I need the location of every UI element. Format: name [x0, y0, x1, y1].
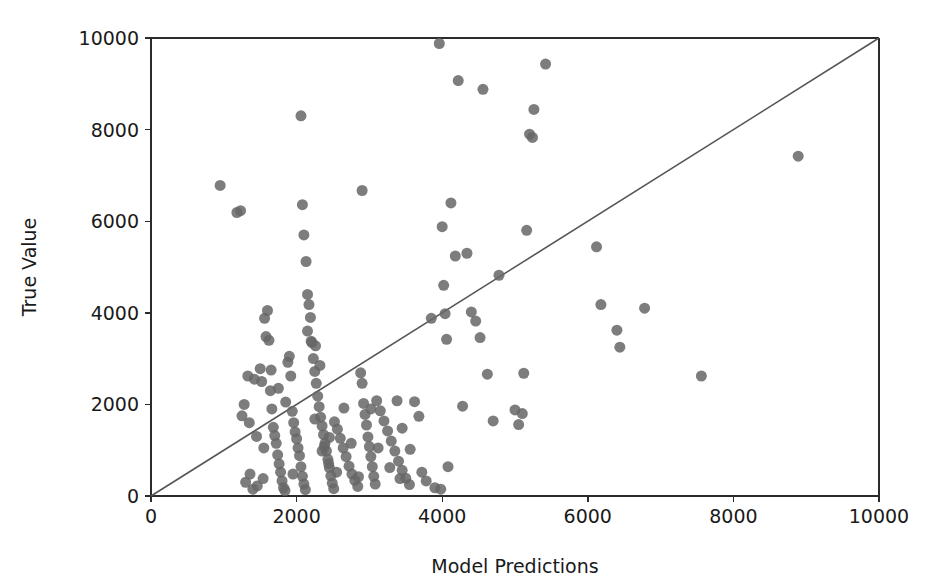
- scatter-point: [457, 401, 468, 412]
- scatter-point: [280, 397, 291, 408]
- scatter-point: [258, 442, 269, 453]
- y-tick-label: 0: [127, 485, 139, 507]
- scatter-point: [696, 371, 707, 382]
- y-axis-title: True Value: [18, 218, 40, 318]
- scatter-point: [314, 360, 325, 371]
- scatter-point: [793, 151, 804, 162]
- scatter-point: [493, 270, 504, 281]
- scatter-point: [357, 378, 368, 389]
- scatter-point: [311, 378, 322, 389]
- scatter-point: [370, 479, 381, 490]
- scatter-point: [357, 185, 368, 196]
- scatter-point: [450, 251, 461, 262]
- scatter-point: [328, 483, 339, 494]
- x-tick-label: 6000: [564, 505, 612, 527]
- scatter-point: [421, 475, 432, 486]
- scatter-point: [426, 313, 437, 324]
- scatter-point: [517, 408, 528, 419]
- scatter-point: [346, 438, 357, 449]
- scatter-point: [323, 458, 334, 469]
- scatter-point: [324, 432, 335, 443]
- scatter-point: [258, 473, 269, 484]
- scatter-point: [409, 396, 420, 407]
- scatter-point: [272, 449, 283, 460]
- scatter-point: [639, 303, 650, 314]
- scatter-point: [298, 229, 309, 240]
- scatter-point: [245, 469, 256, 480]
- scatter-point: [273, 383, 284, 394]
- scatter-point: [271, 438, 282, 449]
- scatter-point: [384, 462, 395, 473]
- scatter-point: [488, 415, 499, 426]
- scatter-point: [365, 451, 376, 462]
- scatter-point: [255, 363, 266, 374]
- x-tick-label: 4000: [418, 505, 466, 527]
- scatter-point: [434, 38, 445, 49]
- scatter-point: [288, 417, 299, 428]
- x-tick-label: 2000: [272, 505, 320, 527]
- scatter-point: [352, 481, 363, 492]
- scatter-point: [438, 280, 449, 291]
- x-tick-label: 8000: [709, 505, 757, 527]
- scatter-point: [312, 391, 323, 402]
- scatter-point: [477, 84, 488, 95]
- scatter-point: [453, 75, 464, 86]
- scatter-point: [435, 484, 446, 495]
- scatter-point: [335, 433, 346, 444]
- scatter-point: [614, 342, 625, 353]
- scatter-point: [445, 197, 456, 208]
- scatter-point: [437, 221, 448, 232]
- scatter-point: [382, 425, 393, 436]
- scatter-point: [338, 403, 349, 414]
- scatter-point: [513, 419, 524, 430]
- scatter-point: [389, 446, 400, 457]
- scatter-point: [331, 467, 342, 478]
- x-tick-label: 10000: [849, 505, 909, 527]
- scatter-point: [256, 376, 267, 387]
- scatter-point: [303, 299, 314, 310]
- scatter-point: [367, 461, 378, 472]
- scatter-point: [341, 451, 352, 462]
- y-tick-label: 4000: [91, 302, 139, 324]
- scatter-point: [521, 225, 532, 236]
- y-tick-label: 2000: [91, 393, 139, 415]
- scatter-point: [251, 431, 262, 442]
- scatter-point: [392, 395, 403, 406]
- scatter-point: [362, 431, 373, 442]
- scatter-point: [355, 367, 366, 378]
- scatter-point: [527, 132, 538, 143]
- scatter-point: [239, 399, 250, 410]
- scatter-point: [540, 59, 551, 70]
- scatter-point: [378, 415, 389, 426]
- scatter-point: [287, 406, 298, 417]
- y-tick-label: 8000: [91, 119, 139, 141]
- scatter-point: [266, 365, 277, 376]
- scatter-point: [518, 368, 529, 379]
- scatter-point: [413, 411, 424, 422]
- scatter-point: [295, 110, 306, 121]
- scatter-point: [386, 436, 397, 447]
- scatter-point: [305, 312, 316, 323]
- scatter-point: [482, 369, 493, 380]
- x-axis-title: Model Predictions: [431, 555, 598, 577]
- scatter-point: [291, 433, 302, 444]
- scatter-point: [279, 485, 290, 496]
- scatter-point: [595, 299, 606, 310]
- scatter-point: [284, 351, 295, 362]
- scatter-point: [404, 479, 415, 490]
- scatter-point: [309, 414, 320, 425]
- x-tick-label: 0: [145, 505, 157, 527]
- scatter-point: [285, 371, 296, 382]
- scatter-plot-svg: 0200040006000800010000020004000600080001…: [0, 0, 946, 587]
- scatter-point: [314, 401, 325, 412]
- y-tick-label: 6000: [91, 210, 139, 232]
- scatter-point: [244, 417, 255, 428]
- scatter-point: [394, 473, 405, 484]
- chart-figure: 0200040006000800010000020004000600080001…: [0, 0, 946, 587]
- scatter-point: [361, 420, 372, 431]
- scatter-point: [317, 446, 328, 457]
- scatter-point: [441, 334, 452, 345]
- scatter-point: [405, 444, 416, 455]
- scatter-point: [235, 205, 246, 216]
- scatter-point: [470, 316, 481, 327]
